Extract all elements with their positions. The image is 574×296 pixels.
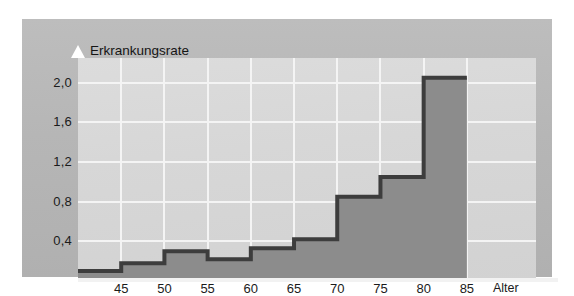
step-area-fill: [78, 78, 467, 281]
x-axis-tick-label: 75: [373, 281, 387, 296]
x-axis-caption: Alter: [493, 281, 519, 295]
chart-frame: Erkrankungsratein % 2,01,61,20,80,4 4550…: [22, 19, 552, 277]
plot-area: [78, 58, 536, 281]
y-axis-tick-label: 0,8: [28, 194, 72, 209]
x-axis-tick-label: 70: [330, 281, 344, 296]
step-area-series: [78, 58, 536, 281]
y-axis-tick-label: 0,4: [28, 233, 72, 248]
x-axis-tick-label: 80: [416, 281, 430, 296]
x-axis-tick-label: 45: [114, 281, 128, 296]
y-axis-arrow-icon: [71, 45, 85, 58]
y-axis-tick-label: 1,6: [28, 114, 72, 129]
x-axis-tick-label: 65: [287, 281, 301, 296]
x-axis-tick-labels: 455055606570758085Alter: [78, 281, 558, 296]
y-axis-tick-labels: 2,01,61,20,80,4: [26, 58, 72, 281]
y-axis-tick-label: 1,2: [28, 154, 72, 169]
chart-title-line1: Erkrankungsrate: [90, 43, 189, 58]
x-axis-tick-label: 60: [244, 281, 258, 296]
chart-figure: Erkrankungsratein % 2,01,61,20,80,4 4550…: [0, 0, 574, 296]
x-axis-tick-label: 55: [200, 281, 214, 296]
y-axis-tick-label: 2,0: [28, 75, 72, 90]
x-axis-tick-label: 85: [460, 281, 474, 296]
x-axis-tick-label: 50: [157, 281, 171, 296]
